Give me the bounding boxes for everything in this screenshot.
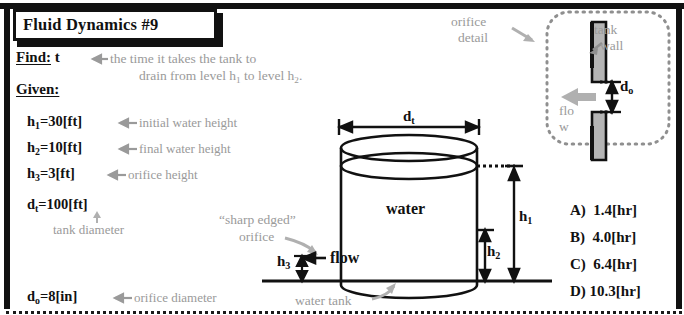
answer-option-a[interactable]: A) 1.4[hr] (570, 202, 637, 219)
do-dimension (604, 82, 621, 112)
orifice-flow-label-line-2: w (559, 119, 569, 135)
do-sub: o (628, 85, 633, 96)
orifice-detail-pointer-icon (512, 28, 535, 42)
tank-wall-lower (592, 112, 606, 160)
tank-wall-label-line-2: wall (600, 38, 623, 54)
answer-value-d: 10.3[hr] (590, 283, 641, 299)
answer-value-a: 1.4[hr] (593, 202, 637, 218)
problem-card: Fluid Dynamics #9 Find: t the time it ta… (0, 0, 684, 315)
answer-key-b: B) (570, 229, 585, 245)
answer-option-c[interactable]: C) 6.4[hr] (570, 256, 637, 273)
answer-key-a: A) (570, 202, 586, 218)
answer-value-c: 6.4[hr] (593, 256, 637, 272)
answer-key-d: D) (570, 283, 586, 299)
do-dimension-label: do (620, 78, 633, 96)
tank-wall-label-line-1: tank (594, 22, 617, 38)
answer-key-c: C) (570, 256, 586, 272)
answer-option-b[interactable]: B) 4.0[hr] (570, 229, 636, 246)
answer-value-b: 4.0[hr] (593, 229, 637, 245)
answer-option-d[interactable]: D) 10.3[hr] (570, 283, 641, 300)
orifice-flow-label-line-1: flo (559, 103, 574, 119)
